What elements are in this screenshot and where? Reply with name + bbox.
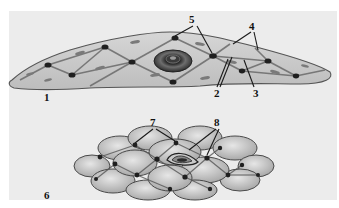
callout-2: 2 <box>214 88 220 99</box>
panel-label-6: 6 <box>44 190 50 201</box>
flat-cell-cluster <box>74 126 274 200</box>
callout-7: 7 <box>150 117 156 128</box>
callout-5: 5 <box>189 14 195 25</box>
nucleus-top <box>154 50 192 72</box>
callout-8: 8 <box>214 117 220 128</box>
panel-label-1: 1 <box>44 92 50 103</box>
figure: 1 5 4 2 3 6 7 8 <box>0 0 339 208</box>
callout-4: 4 <box>249 21 255 32</box>
callout-3: 3 <box>253 88 259 99</box>
spindle-cell <box>9 32 331 90</box>
cell-illustration <box>0 0 339 208</box>
